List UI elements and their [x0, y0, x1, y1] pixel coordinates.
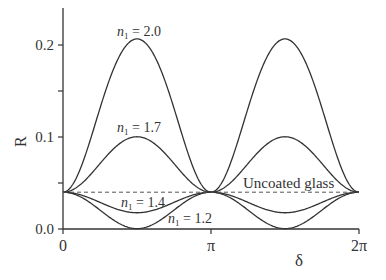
x-tick-label: 0 [59, 237, 67, 254]
curves [63, 39, 359, 229]
y-tick-label: 0.2 [35, 37, 54, 53]
label-n1-2.0: n1 = 2.0 [117, 24, 161, 41]
curve-n1-1.4 [63, 192, 359, 213]
y-tick-label: 0.1 [35, 129, 54, 145]
label-n1-1.2: n1 = 1.2 [168, 211, 212, 228]
x-tick-label: π [207, 237, 215, 254]
y-axis-label: R [12, 136, 29, 147]
x-axis-label: δ [295, 251, 303, 270]
label-n1-1.7: n1 = 1.7 [117, 120, 161, 137]
curve-n1-2.0 [63, 39, 359, 192]
label-n1-1.4: n1 = 1.4 [121, 195, 165, 212]
uncoated-glass-label: Uncoated glass [243, 175, 334, 191]
y-tick-label: 0.0 [35, 221, 54, 237]
reflectance-chart: 0.00.10.20π2πRδ n1 = 2.0n1 = 1.7n1 = 1.4… [0, 0, 386, 280]
x-tick-label: 2π [351, 237, 367, 254]
axes: 0.00.10.20π2πRδ [12, 8, 367, 270]
